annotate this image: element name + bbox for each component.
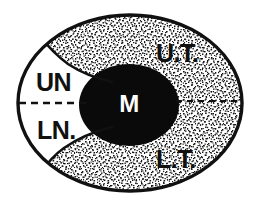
label-lower-tube: L.T. <box>156 145 196 173</box>
label-lower-notch: LN. <box>37 116 76 144</box>
label-upper-notch: UN <box>36 68 71 96</box>
diagram-canvas: M U.T. L.T. UN LN. <box>0 0 261 209</box>
label-upper-tube: U.T. <box>156 39 198 67</box>
cross-section-diagram: M U.T. L.T. UN LN. <box>0 0 261 209</box>
label-core: M <box>119 90 139 117</box>
